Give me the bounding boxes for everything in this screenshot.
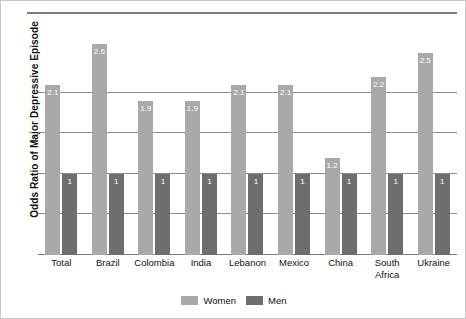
bar-men-colombia[interactable]: 1 [155, 174, 170, 255]
x-tick-south-africa: SouthAfrica [364, 257, 411, 281]
bar-men-mexico[interactable]: 1 [295, 174, 310, 255]
legend-entry-women[interactable]: Women [181, 295, 236, 306]
bar-women-ukraine[interactable]: 2.5 [418, 53, 433, 256]
bar-value-label: 1 [435, 177, 450, 187]
bar-men-brazil[interactable]: 1 [109, 174, 124, 255]
legend-swatch-men [246, 296, 263, 305]
chart-legend: WomenMen [1, 295, 466, 306]
x-tick-lebanon: Lebanon [224, 257, 271, 269]
bar-men-south-africa[interactable]: 1 [388, 174, 403, 255]
bar-women-brazil[interactable]: 2.6 [92, 44, 107, 255]
bar-women-india[interactable]: 1.9 [185, 101, 200, 255]
bar-series-container: 2.112.611.911.912.112.111.212.212.51 [38, 12, 457, 255]
bar-women-south-africa[interactable]: 2.2 [371, 77, 386, 255]
bar-value-label: 1 [248, 177, 263, 187]
bar-value-label: 1 [109, 177, 124, 187]
bar-group: 1.21 [317, 12, 364, 255]
bar-value-label: 1.9 [138, 104, 153, 114]
bar-women-mexico[interactable]: 2.1 [278, 85, 293, 255]
x-tick-total: Total [38, 257, 85, 269]
bar-value-label: 1 [295, 177, 310, 187]
x-tick-mexico: Mexico [271, 257, 318, 269]
x-tick-colombia: Colombia [131, 257, 178, 269]
bar-value-label: 2.1 [231, 88, 246, 98]
bar-group: 2.61 [85, 12, 132, 255]
bar-group: 1.91 [131, 12, 178, 255]
bar-women-total[interactable]: 2.1 [45, 85, 60, 255]
legend-swatch-women [181, 296, 198, 305]
x-tick-india: India [178, 257, 225, 269]
bar-group: 2.11 [271, 12, 318, 255]
bar-men-china[interactable]: 1 [342, 174, 357, 255]
x-tick-brazil: Brazil [85, 257, 132, 269]
chart-figure: Odds Ratio of Major Depressive Episode 2… [0, 0, 466, 319]
bar-value-label: 2.2 [371, 80, 386, 90]
bar-value-label: 1 [202, 177, 217, 187]
bar-women-lebanon[interactable]: 2.1 [231, 85, 246, 255]
bar-value-label: 1.9 [185, 104, 200, 114]
bar-group: 2.11 [224, 12, 271, 255]
legend-label-men: Men [268, 295, 286, 306]
bar-value-label: 1 [155, 177, 170, 187]
x-tick-china: China [317, 257, 364, 269]
bar-value-label: 1.2 [325, 161, 340, 171]
legend-entry-men[interactable]: Men [246, 295, 286, 306]
bar-group: 2.11 [38, 12, 85, 255]
x-tick-ukraine: Ukraine [410, 257, 457, 269]
bar-group: 2.51 [410, 12, 457, 255]
legend-label-women: Women [203, 295, 236, 306]
bar-group: 1.91 [178, 12, 225, 255]
bar-value-label: 2.5 [418, 56, 433, 66]
x-tick-labels: TotalBrazilColombiaIndiaLebanonMexicoChi… [38, 257, 457, 291]
bar-value-label: 2.1 [45, 88, 60, 98]
bar-value-label: 1 [62, 177, 77, 187]
bar-value-label: 1 [342, 177, 357, 187]
bar-men-total[interactable]: 1 [62, 174, 77, 255]
bar-value-label: 2.6 [92, 47, 107, 57]
bar-women-china[interactable]: 1.2 [325, 158, 340, 255]
bar-group: 2.21 [364, 12, 411, 255]
bar-men-india[interactable]: 1 [202, 174, 217, 255]
bar-value-label: 2.1 [278, 88, 293, 98]
bar-men-lebanon[interactable]: 1 [248, 174, 263, 255]
bar-women-colombia[interactable]: 1.9 [138, 101, 153, 255]
bar-men-ukraine[interactable]: 1 [435, 174, 450, 255]
bar-value-label: 1 [388, 177, 403, 187]
